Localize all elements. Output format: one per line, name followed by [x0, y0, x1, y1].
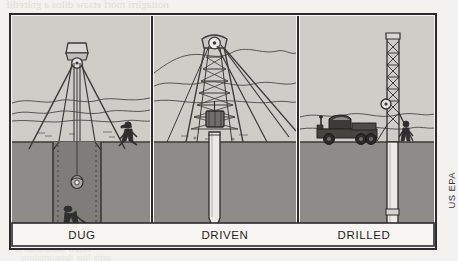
caption-drilled: DRILLED	[338, 229, 391, 241]
bleedthrough-text-line1: noitagirri morf etsaw dilos a gniretlif	[6, 0, 169, 10]
source-credit-label: US EPA	[446, 172, 457, 209]
scan-grain-overlay	[12, 16, 434, 223]
caption-dug: DUG	[68, 229, 95, 241]
well-types-figure: DUG DRIVEN DRILLED	[9, 13, 437, 250]
caption-bar: DUG DRIVEN DRILLED	[12, 223, 434, 246]
bleedthrough-text-line7: setis lios detanimatnoc	[20, 252, 111, 261]
caption-driven: DRIVEN	[201, 229, 248, 241]
